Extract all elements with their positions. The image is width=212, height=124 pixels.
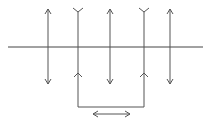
diagram-canvas	[0, 0, 212, 124]
diagram-svg	[0, 0, 212, 124]
fork-top-icon	[139, 8, 149, 12]
fork-top-icon	[73, 8, 83, 12]
